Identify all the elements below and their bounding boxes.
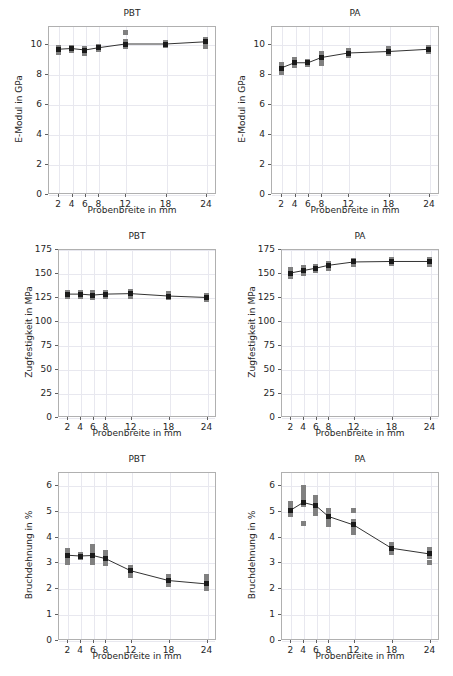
xtick-label: 18 — [163, 422, 174, 432]
gridline-h — [59, 538, 215, 539]
xtick-mark — [295, 194, 296, 197]
gridline-v — [73, 27, 74, 193]
mean-marker — [427, 259, 432, 264]
panel-title-pbt-bruchdehnung: PBT — [58, 454, 216, 464]
gridline-h — [59, 486, 215, 487]
gridline-h — [49, 135, 215, 136]
trend-line-pa-zugfestigkeit — [0, 0, 453, 676]
xtick-mark — [105, 640, 106, 643]
xtick-label: 24 — [200, 199, 211, 209]
ytick-label: 10 — [254, 39, 265, 49]
panel-pa-bruchdehnung: PA01234562468121824Probenbreite in mmBru… — [0, 0, 453, 676]
xtick-mark — [105, 417, 106, 420]
scatter-point — [427, 257, 432, 262]
xtick-label: 2 — [278, 199, 284, 209]
ytick-mark — [55, 614, 58, 615]
gridline-h — [272, 75, 438, 76]
panel-pa-zugfestigkeit: PA02550751001251501752468121824Probenbre… — [0, 0, 453, 676]
scatter-point — [82, 49, 87, 54]
gridline-h — [49, 195, 215, 196]
xtick-label: 4 — [77, 422, 83, 432]
xtick-mark — [93, 640, 94, 643]
scatter-point — [351, 259, 356, 264]
scatter-point — [204, 582, 209, 587]
gridline-h — [59, 274, 215, 275]
xtick-label: 24 — [423, 199, 434, 209]
ytick-mark — [278, 321, 281, 322]
scatter-point — [386, 46, 391, 51]
scatter-point — [351, 526, 356, 531]
scatter-point — [351, 519, 356, 524]
ytick-label: 3 — [269, 557, 275, 567]
scatter-point — [389, 550, 394, 555]
gridline-v — [81, 250, 82, 416]
mean-marker — [103, 292, 108, 297]
gridline-v — [170, 250, 171, 416]
scatter-point — [203, 39, 208, 44]
ytick-mark — [278, 562, 281, 563]
yaxis-label-pbt-zugfestigkeit: Zugfestigkeit in MPa — [24, 248, 34, 416]
scatter-point — [426, 48, 431, 53]
gridline-h — [59, 298, 215, 299]
gridline-h — [282, 394, 438, 395]
scatter-point — [351, 530, 356, 535]
gridline-h — [272, 105, 438, 106]
scatter-point — [204, 297, 209, 302]
mean-marker — [204, 581, 209, 586]
scatter-point — [204, 578, 209, 583]
scatter-point — [326, 519, 331, 524]
gridline-h — [59, 322, 215, 323]
mean-marker — [78, 292, 83, 297]
mean-marker — [69, 46, 74, 51]
xtick-mark — [169, 640, 170, 643]
gridline-v — [431, 473, 432, 639]
gridline-h — [272, 135, 438, 136]
ytick-mark — [45, 164, 48, 165]
mean-marker — [90, 553, 95, 558]
scatter-point — [65, 560, 70, 565]
mean-marker — [103, 556, 108, 561]
gridline-h — [282, 563, 438, 564]
gridline-h — [59, 589, 215, 590]
mean-marker — [166, 294, 171, 299]
gridline-v — [86, 27, 87, 193]
ytick-mark — [55, 345, 58, 346]
xtick-mark — [392, 417, 393, 420]
ytick-label: 50 — [41, 364, 52, 374]
scatter-point — [56, 45, 61, 50]
xtick-label: 2 — [288, 645, 294, 655]
ytick-label: 6 — [36, 99, 42, 109]
gridline-h — [49, 75, 215, 76]
xtick-label: 12 — [125, 645, 136, 655]
scatter-point — [128, 565, 133, 570]
scatter-point — [301, 521, 306, 526]
xtick-mark — [308, 194, 309, 197]
mean-marker — [351, 522, 356, 527]
scatter-point — [427, 560, 432, 565]
xtick-mark — [328, 417, 329, 420]
xtick-mark — [206, 194, 207, 197]
xtick-mark — [430, 417, 431, 420]
gridline-h — [282, 322, 438, 323]
scatter-point — [279, 67, 284, 72]
scatter-point — [65, 552, 70, 557]
panel-pbt-emodul: PBT02468102468121824Probenbreite in mmE-… — [0, 0, 453, 676]
ytick-label: 6 — [46, 480, 52, 490]
scatter-point — [78, 552, 83, 557]
gridline-h — [59, 615, 215, 616]
ytick-mark — [268, 44, 271, 45]
scatter-point — [319, 51, 324, 56]
mean-marker — [292, 60, 297, 65]
ytick-label: 175 — [258, 244, 275, 254]
scatter-point — [292, 59, 297, 64]
ytick-label: 6 — [269, 480, 275, 490]
scatter-point — [351, 258, 356, 263]
xtick-label: 6 — [90, 422, 96, 432]
xaxis-label-pa-zugfestigkeit: Probenbreite in mm — [281, 428, 439, 438]
yaxis-label-pa-zugfestigkeit: Zugfestigkeit in MPa — [247, 248, 257, 416]
gridline-h — [272, 45, 438, 46]
ytick-mark — [55, 485, 58, 486]
yaxis-label-pa-bruchdehnung: Bruchdehnung in % — [247, 471, 257, 639]
gridline-h — [282, 486, 438, 487]
gridline-v — [99, 27, 100, 193]
